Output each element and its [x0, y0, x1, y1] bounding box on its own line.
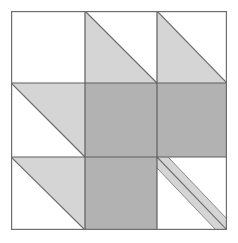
cell-r3c2 — [85, 157, 157, 230]
cell-r3c3 — [157, 157, 227, 230]
cell-r1c1 — [11, 11, 85, 83]
cell-r2c2 — [85, 83, 157, 157]
patch-solid-gray — [85, 157, 157, 230]
cell-r1c2 — [85, 11, 157, 83]
patch-solid-gray — [157, 83, 227, 157]
cell-r3c1 — [11, 157, 85, 230]
quilt-block — [11, 11, 227, 230]
quilt-block-svg — [11, 11, 227, 230]
cell-r2c3 — [157, 83, 227, 157]
patch-plain-white — [11, 11, 85, 83]
cell-r1c3 — [157, 11, 227, 83]
artwork-canvas — [0, 0, 238, 243]
cell-r2c1 — [11, 83, 85, 157]
patch-solid-gray — [85, 83, 157, 157]
